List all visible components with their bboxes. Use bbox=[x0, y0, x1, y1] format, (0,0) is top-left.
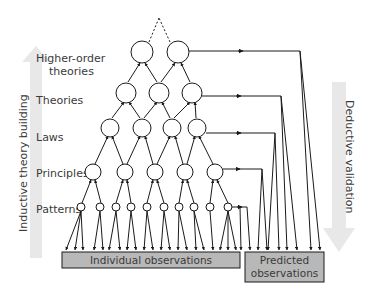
node-theory bbox=[149, 83, 169, 103]
node-principle bbox=[117, 164, 133, 180]
level-label-principles: Principles bbox=[36, 167, 89, 180]
nodes bbox=[77, 41, 232, 211]
individual-observations-label: Individual observations bbox=[90, 254, 212, 266]
node-law bbox=[163, 119, 181, 137]
level-label-higher-order-2: theories bbox=[49, 65, 94, 78]
theory-hierarchy-diagram: Inductive theory building Deductive vali… bbox=[0, 0, 373, 293]
node-law bbox=[133, 119, 151, 137]
node-pattern bbox=[77, 203, 85, 211]
level-label-patterns: Patterns bbox=[36, 203, 82, 216]
node-pattern bbox=[112, 203, 120, 211]
node-pattern bbox=[206, 203, 214, 211]
node-pattern bbox=[190, 203, 198, 211]
node-pattern bbox=[224, 203, 232, 211]
node-pattern bbox=[175, 203, 183, 211]
level-label-theories: Theories bbox=[35, 94, 84, 107]
node-principle bbox=[85, 164, 101, 180]
node-higher-order bbox=[167, 41, 189, 63]
node-higher-order bbox=[131, 41, 153, 63]
node-pattern bbox=[96, 203, 104, 211]
observation-links bbox=[66, 211, 236, 250]
inductive-label: Inductive theory building bbox=[17, 94, 30, 232]
node-principle bbox=[147, 164, 163, 180]
level-label-laws: Laws bbox=[36, 131, 64, 144]
deductive-label: Deductive validation bbox=[343, 100, 356, 214]
node-pattern bbox=[143, 203, 151, 211]
node-principle bbox=[207, 164, 223, 180]
level-label-higher-order: Higher-order bbox=[36, 52, 106, 65]
node-pattern bbox=[160, 203, 168, 211]
predicted-observations-label-2: observations bbox=[251, 267, 319, 279]
deductive-links bbox=[189, 51, 320, 250]
node-law bbox=[188, 119, 206, 137]
apex-dashed-lines bbox=[149, 18, 170, 42]
node-theory bbox=[182, 83, 202, 103]
predicted-observations-label-1: Predicted bbox=[260, 254, 309, 266]
node-principle bbox=[177, 164, 193, 180]
node-pattern bbox=[127, 203, 135, 211]
node-theory bbox=[116, 83, 136, 103]
node-law bbox=[101, 119, 119, 137]
